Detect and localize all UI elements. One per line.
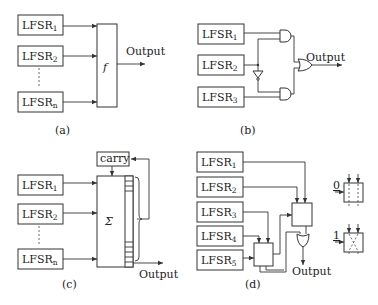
caption-b: (b) bbox=[240, 124, 256, 137]
svg-text:LFSR2: LFSR2 bbox=[22, 208, 58, 222]
caption-a: (a) bbox=[55, 124, 70, 137]
lfsr-box: LFSR3 bbox=[197, 202, 243, 222]
lfsr-box: LFSR4 bbox=[197, 226, 243, 246]
lfsr-box: LFSR1 bbox=[18, 15, 63, 35]
switch-box-bottom bbox=[254, 243, 273, 266]
and-gate-icon bbox=[280, 88, 291, 100]
output-label: Output bbox=[306, 51, 346, 64]
svg-text:LFSR5: LFSR5 bbox=[201, 254, 237, 268]
svg-text:1: 1 bbox=[333, 229, 340, 242]
panel-a: LFSR1 LFSR2 LFSRn f Output (a) bbox=[18, 15, 166, 137]
lfsr-box: LFSR2 bbox=[197, 177, 243, 197]
svg-text:LFSR2: LFSR2 bbox=[201, 181, 237, 195]
output-label: Output bbox=[292, 265, 332, 278]
output-label: Output bbox=[139, 268, 179, 281]
caption-c: (c) bbox=[62, 278, 77, 291]
not-gate-icon bbox=[253, 71, 263, 78]
svg-text:LFSR1: LFSR1 bbox=[202, 28, 238, 42]
svg-text:LFSRn: LFSRn bbox=[22, 253, 58, 267]
switch-legend-straight: 0 bbox=[333, 174, 363, 206]
lfsr-box: LFSR5 bbox=[197, 250, 243, 270]
svg-text:LFSR2: LFSR2 bbox=[22, 50, 58, 64]
switch-box-top bbox=[292, 203, 312, 226]
panel-d: LFSR1 LFSR2 LFSR3 LFSR4 LFSR5 bbox=[197, 152, 363, 291]
output-label: Output bbox=[126, 45, 166, 58]
svg-text:0: 0 bbox=[333, 179, 340, 192]
caption-d: (d) bbox=[245, 278, 261, 291]
switch-legend-crossed: 1 bbox=[333, 224, 363, 256]
carry-register: carry bbox=[97, 152, 130, 166]
combining-function-box: f bbox=[97, 24, 117, 107]
svg-text:LFSRn: LFSRn bbox=[22, 96, 58, 110]
lfsr-box: LFSR3 bbox=[198, 87, 244, 107]
lfsr-box: LFSR2 bbox=[18, 46, 63, 66]
svg-text:LFSR3: LFSR3 bbox=[202, 91, 238, 105]
svg-text:Σ: Σ bbox=[104, 215, 113, 228]
svg-text:LFSR2: LFSR2 bbox=[202, 59, 238, 73]
or-gate-icon bbox=[297, 234, 309, 247]
panel-b: LFSR1 LFSR2 LFSR3 Output (b) bbox=[198, 24, 346, 137]
panel-c: carry LFSR1 LFSR2 LFSRn bbox=[18, 152, 179, 291]
lfsr-box: LFSR2 bbox=[198, 55, 244, 75]
lfsr-combiner-figure: LFSR1 LFSR2 LFSRn f Output (a) LFSR1 LFS… bbox=[0, 0, 378, 305]
svg-text:LFSR1: LFSR1 bbox=[201, 156, 237, 170]
svg-text:LFSR4: LFSR4 bbox=[201, 230, 237, 244]
summation-box: Σ bbox=[97, 176, 133, 267]
lfsr-box: LFSRn bbox=[18, 92, 63, 112]
svg-text:LFSR1: LFSR1 bbox=[22, 19, 58, 33]
lfsr-box: LFSR1 bbox=[18, 175, 63, 195]
svg-text:LFSR3: LFSR3 bbox=[201, 206, 237, 220]
svg-text:LFSR1: LFSR1 bbox=[22, 179, 58, 193]
svg-text:carry: carry bbox=[100, 152, 130, 165]
lfsr-box: LFSR2 bbox=[18, 204, 63, 224]
lfsr-box: LFSR1 bbox=[198, 24, 244, 44]
lfsr-box: LFSRn bbox=[18, 249, 63, 269]
lfsr-box: LFSR1 bbox=[197, 152, 243, 172]
and-gate-icon bbox=[280, 30, 291, 42]
